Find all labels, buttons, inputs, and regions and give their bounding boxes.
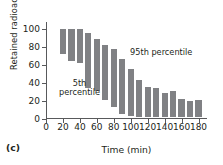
x-tick-label: 20 <box>57 122 68 132</box>
y-tick-label: 40 <box>29 78 40 88</box>
x-tick-label: 80 <box>108 122 119 132</box>
range-bar <box>170 91 176 117</box>
range-bar <box>153 88 159 117</box>
x-tick-label: 0 <box>43 122 49 132</box>
range-bar <box>162 93 168 117</box>
y-tick-label: 100 <box>23 24 40 34</box>
range-bar <box>178 99 184 117</box>
range-bar <box>111 49 117 107</box>
range-bar <box>187 101 193 117</box>
annotation-95th-percentile: 95th percentile <box>130 48 192 57</box>
panel-label: (c) <box>6 142 20 153</box>
range-bar <box>195 100 201 117</box>
range-bar <box>136 80 142 117</box>
x-tick-label: 120 <box>139 122 156 132</box>
x-tick-label: 100 <box>122 122 139 132</box>
x-tick-label: 40 <box>74 122 85 132</box>
x-axis-title: Time (min) <box>46 144 207 155</box>
x-tick-label: 180 <box>190 122 207 132</box>
annotation-5th-percentile: 5th percentile <box>59 79 100 98</box>
bar-series-group <box>46 22 207 119</box>
y-tick-label: 20 <box>29 96 40 106</box>
x-tick-label: 160 <box>173 122 190 132</box>
y-tick-label: 80 <box>29 42 40 52</box>
range-bar <box>145 87 151 118</box>
x-tick-label: 140 <box>156 122 173 132</box>
x-tick-label: 60 <box>91 122 102 132</box>
y-tick-label: 60 <box>29 60 40 70</box>
y-tick-label: 0 <box>34 114 40 124</box>
y-axis-title: Retained radioactivity (%) <box>9 0 19 70</box>
range-bar <box>102 45 108 100</box>
figure-panel-c: Retained radioactivity (%) 020406080100 … <box>0 0 223 165</box>
range-bar <box>77 29 83 63</box>
range-bar <box>119 59 125 115</box>
plot-area: 020406080100 020406080100120140160180 95… <box>46 22 207 119</box>
range-bar <box>68 29 74 60</box>
range-bar <box>128 69 134 117</box>
range-bar <box>60 29 66 54</box>
